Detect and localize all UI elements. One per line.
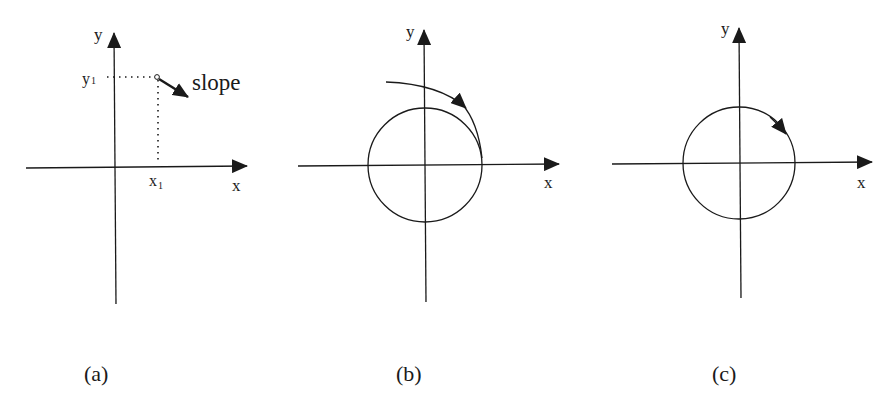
caption-b: (b) bbox=[396, 361, 422, 386]
x-axis-label: x bbox=[544, 173, 553, 192]
point-marker bbox=[155, 75, 160, 80]
y-axis bbox=[114, 33, 116, 304]
x-axis-label: x bbox=[857, 173, 866, 192]
y-axis-label: y bbox=[721, 19, 730, 38]
y-axis bbox=[424, 30, 426, 302]
panel-a: slope y x y1 x1 (a) bbox=[26, 25, 247, 386]
y-axis-label: y bbox=[406, 22, 415, 41]
y1-label: y1 bbox=[82, 70, 96, 88]
panel-c: y x (c) bbox=[612, 19, 872, 386]
figure-canvas: slope y x y1 x1 (a) y x (b) y x (c) bbox=[0, 0, 889, 403]
x-axis-label: x bbox=[232, 176, 241, 195]
x1-label: x1 bbox=[149, 172, 163, 191]
y-axis-label: y bbox=[94, 25, 103, 44]
caption-c: (c) bbox=[712, 361, 736, 386]
approaching-curve bbox=[386, 82, 466, 108]
slope-arrow-icon bbox=[159, 79, 188, 97]
x-axis bbox=[612, 162, 872, 164]
x-axis bbox=[26, 166, 247, 168]
clockwise-arrow-icon bbox=[770, 117, 786, 134]
panel-b: y x (b) bbox=[298, 22, 559, 386]
slope-label: slope bbox=[192, 70, 241, 95]
caption-a: (a) bbox=[84, 361, 108, 386]
approaching-curve-tail bbox=[462, 104, 482, 158]
x-axis bbox=[298, 164, 559, 166]
